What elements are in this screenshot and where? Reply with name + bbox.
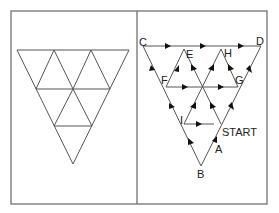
label-C: C (139, 36, 147, 48)
label-A: A (215, 143, 223, 155)
arrow-icon (228, 64, 234, 71)
label-G: G (235, 74, 244, 86)
label-I: I (180, 114, 183, 126)
arrow-icon (191, 64, 197, 71)
left-triangle-grid (17, 50, 129, 164)
arrow-icon (210, 102, 216, 109)
arrow-icon (218, 84, 224, 90)
arrow-icon (200, 43, 206, 49)
label-D: D (256, 35, 264, 47)
right-outer-triangle (143, 46, 261, 166)
label-F: F (161, 74, 168, 86)
arrow-icon (188, 138, 194, 145)
arrow-icon (182, 84, 188, 90)
line-F-E (166, 49, 184, 87)
arrow-icon (238, 43, 244, 49)
left-outer-triangle (17, 50, 129, 164)
label-B: B (197, 168, 204, 180)
label-H: H (224, 47, 232, 59)
arrow-icon (190, 102, 196, 109)
arrow-icon (208, 64, 214, 71)
arrow-icon (196, 121, 202, 127)
diagram-canvas: C D E H F G I START A B (0, 0, 279, 213)
arrow-icon (165, 43, 171, 49)
label-E: E (186, 48, 193, 60)
right-path-diagram: C D E H F G I START A B (139, 35, 264, 180)
arrow-icon (169, 103, 175, 109)
arrow-icon (228, 102, 234, 110)
label-start: START (222, 126, 257, 138)
